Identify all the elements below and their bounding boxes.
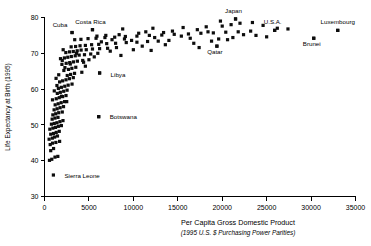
annotation-label: Libya — [111, 71, 126, 78]
data-point — [85, 48, 88, 51]
y-tick-label: 80 — [31, 14, 39, 21]
data-point-labeled — [234, 17, 237, 20]
data-point — [72, 60, 75, 63]
data-point — [64, 94, 67, 97]
data-point — [151, 27, 154, 30]
data-point — [67, 68, 70, 71]
annotation-label: Brunei — [303, 40, 321, 47]
data-point — [89, 52, 92, 55]
data-point — [119, 54, 122, 57]
data-point — [60, 86, 63, 89]
data-point — [48, 128, 51, 131]
data-point — [251, 21, 254, 24]
data-point — [62, 69, 65, 72]
data-point — [62, 90, 65, 93]
data-point — [67, 84, 70, 87]
data-point — [164, 43, 167, 46]
y-tick-label: 40 — [31, 157, 39, 164]
y-tick-label: 60 — [31, 86, 39, 93]
data-point — [86, 37, 89, 40]
x-axis-subtitle: (1995 U.S. $ Purchasing Power Parities) — [181, 229, 296, 237]
data-point — [93, 55, 96, 58]
data-point — [62, 105, 65, 108]
x-tick-label: 10000 — [124, 204, 144, 211]
data-point — [59, 91, 62, 94]
data-point — [205, 25, 208, 28]
y-axis-title: Life Expectancy at Birth (1995) — [4, 63, 12, 150]
annotation-label: Japan — [225, 7, 242, 14]
data-point — [68, 50, 71, 53]
data-point — [54, 103, 57, 106]
data-point — [153, 36, 156, 39]
data-point — [70, 82, 73, 85]
annotation-label: Costa Rica — [75, 18, 106, 25]
data-point — [217, 37, 220, 40]
y-tick-label: 70 — [31, 50, 39, 57]
data-point — [110, 38, 113, 41]
x-tick-label: 20000 — [212, 204, 232, 211]
data-point — [51, 142, 54, 145]
data-point — [58, 130, 61, 133]
data-point — [53, 156, 56, 159]
data-point — [73, 38, 76, 41]
data-point — [55, 121, 58, 124]
y-tick-label: 50 — [31, 122, 39, 129]
data-point — [249, 30, 252, 33]
data-point — [50, 158, 53, 161]
data-point-labeled — [70, 31, 73, 34]
data-point — [96, 52, 99, 55]
annotation-label: Qatar — [207, 48, 222, 55]
data-point — [61, 119, 64, 122]
data-point — [221, 24, 224, 27]
data-point — [57, 102, 60, 105]
annotation-label: Botswana — [110, 113, 138, 120]
data-point — [59, 106, 62, 109]
data-point — [206, 30, 209, 33]
data-point — [56, 107, 59, 110]
data-point — [231, 36, 234, 39]
scatter-chart: 3040506070800500010000150002000025000300… — [0, 0, 371, 246]
data-point — [135, 41, 138, 44]
data-point — [98, 47, 101, 50]
data-point — [132, 48, 135, 51]
data-point — [167, 39, 170, 42]
data-point — [219, 19, 222, 22]
x-tick-label: 0 — [43, 204, 47, 211]
data-point — [123, 37, 126, 40]
data-point — [79, 38, 82, 41]
data-point — [74, 66, 77, 69]
data-point — [135, 35, 138, 38]
data-point — [87, 58, 90, 61]
data-point — [115, 46, 118, 49]
data-point — [90, 43, 93, 46]
data-point — [224, 31, 227, 34]
data-point — [60, 95, 63, 98]
x-tick-label: 25000 — [257, 204, 277, 211]
data-point — [118, 33, 121, 36]
data-point — [144, 30, 147, 33]
y-tick-label: 30 — [31, 193, 39, 200]
annotation-label: Luxembourg — [321, 18, 356, 25]
data-point — [50, 123, 53, 126]
data-point — [226, 38, 229, 41]
data-point — [57, 111, 60, 114]
data-point — [54, 141, 57, 144]
data-point — [61, 110, 64, 113]
data-point — [199, 32, 202, 35]
data-point — [64, 78, 67, 81]
data-point — [74, 45, 77, 48]
data-point — [146, 40, 149, 43]
data-point — [49, 149, 52, 152]
data-point-labeled — [98, 71, 101, 74]
data-point-labeled — [91, 28, 94, 31]
data-point-labeled — [52, 173, 55, 176]
data-point — [53, 135, 56, 138]
data-point — [210, 40, 213, 43]
data-point — [162, 31, 165, 34]
data-point — [70, 67, 73, 70]
data-point — [238, 22, 241, 25]
data-point — [196, 28, 199, 31]
data-point — [48, 138, 51, 141]
data-point — [230, 23, 233, 26]
data-point — [121, 27, 124, 30]
